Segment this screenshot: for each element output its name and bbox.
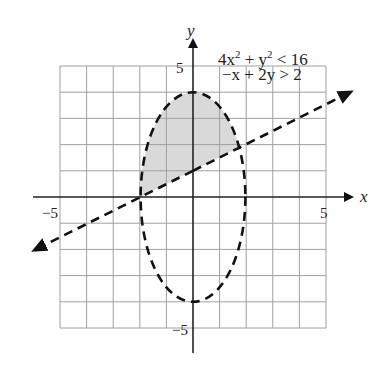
inequality-2: −x + 2y > 2 bbox=[222, 66, 302, 84]
x-axis-label: x bbox=[359, 187, 368, 206]
eq2-text: −x + 2y > 2 bbox=[222, 65, 302, 84]
x-min-tick-label: −5 bbox=[42, 205, 58, 221]
y-min-tick-label: −5 bbox=[172, 322, 188, 338]
inequality-graph: x y −5 5 5 −5 bbox=[0, 0, 382, 369]
y-max-tick-label: 5 bbox=[176, 60, 184, 76]
x-max-tick-label: 5 bbox=[320, 205, 328, 221]
y-axis-label: y bbox=[185, 21, 195, 40]
